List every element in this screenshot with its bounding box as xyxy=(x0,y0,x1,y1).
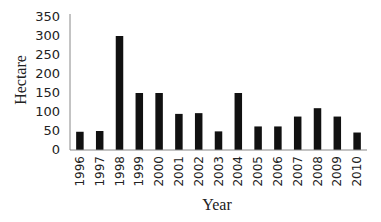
x-tick-label: 2010 xyxy=(350,156,364,187)
y-tick-label: 300 xyxy=(35,28,60,43)
bars xyxy=(76,36,361,150)
x-tick-label: 2000 xyxy=(152,156,166,187)
y-tick-label: 0 xyxy=(52,142,60,157)
bar-2007 xyxy=(294,117,302,150)
bar-2006 xyxy=(274,126,282,150)
bar-2009 xyxy=(334,117,342,150)
bar-2004 xyxy=(235,93,243,150)
x-tick-label: 2006 xyxy=(271,156,285,187)
x-tick-label: 1996 xyxy=(73,156,87,187)
bar-1997 xyxy=(96,131,104,150)
x-tick-label: 1998 xyxy=(113,156,127,187)
y-axis-title: Hectare xyxy=(12,55,29,105)
x-tick-label: 2002 xyxy=(192,156,206,187)
bar-1998 xyxy=(116,36,124,150)
x-tick-label: 2003 xyxy=(212,156,226,187)
y-tick-label: 200 xyxy=(35,66,60,81)
x-tick-label: 2009 xyxy=(330,156,344,187)
bar-2008 xyxy=(314,108,322,150)
y-tick-label: 350 xyxy=(35,9,60,24)
bar-2003 xyxy=(215,131,223,150)
y-axis-ticks: 050100150200250300350 xyxy=(35,9,60,157)
x-tick-label: 1997 xyxy=(93,156,107,187)
bar-2001 xyxy=(175,114,183,150)
bar-2002 xyxy=(195,113,203,150)
bar-2000 xyxy=(155,93,163,150)
x-tick-label: 2005 xyxy=(251,156,265,187)
bar-chart: 050100150200250300350 199619971998199920… xyxy=(0,0,381,222)
x-axis-title: Year xyxy=(202,196,232,213)
x-tick-label: 2007 xyxy=(291,156,305,187)
bar-1996 xyxy=(76,132,84,150)
y-tick-label: 100 xyxy=(35,104,60,119)
bar-1999 xyxy=(136,93,144,150)
x-tick-label: 2008 xyxy=(311,156,325,187)
x-tick-label: 2004 xyxy=(231,156,245,187)
y-tick-label: 150 xyxy=(35,85,60,100)
bar-2005 xyxy=(254,126,262,150)
x-tick-label: 2001 xyxy=(172,156,186,187)
y-tick-label: 250 xyxy=(35,47,60,62)
y-tick-label: 50 xyxy=(43,123,60,138)
x-axis-labels: 1996199719981999200020012002200320042005… xyxy=(73,156,364,187)
x-tick-label: 1999 xyxy=(132,156,146,187)
bar-2010 xyxy=(353,133,361,150)
